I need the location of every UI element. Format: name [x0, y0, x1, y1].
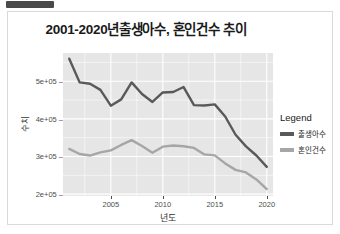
series-line-1 — [69, 140, 267, 189]
y-axis-tick-label: 2e+05 – — [36, 190, 63, 199]
y-axis-tick-label: 3e+05 – — [36, 152, 63, 161]
y-axis-title: 수치 — [18, 116, 30, 132]
x-axis-tick-mark — [163, 196, 164, 199]
legend-title: Legend — [280, 112, 340, 123]
legend-item-1[interactable]: 혼인건수 — [280, 144, 340, 155]
y-axis-tick-label: 4e+05 – — [36, 114, 63, 123]
legend-swatch-icon — [280, 132, 294, 136]
legend-item-label: 출생아수 — [298, 128, 326, 139]
plot-area — [63, 53, 273, 196]
x-axis-title: 년도 — [63, 211, 273, 224]
legend-item-0[interactable]: 출생아수 — [280, 128, 340, 139]
window-chrome-bar — [6, 1, 54, 8]
legend-swatch-icon — [280, 148, 294, 152]
plot-panel — [63, 53, 273, 196]
x-axis-tick-label: 2015 — [206, 200, 223, 209]
x-axis-tick-mark — [215, 196, 216, 199]
x-axis-tick-label: 2020 — [258, 200, 275, 209]
y-axis-tick-label: 5e+05 – — [36, 77, 63, 86]
chart-title: 2001-2020년출생아수, 혼인건수 추이 — [8, 18, 284, 38]
chart-card: 2001-2020년출생아수, 혼인건수 추이 수치 년도 2e+05 –3e+… — [7, 11, 333, 225]
legend: Legend 출생아수혼인건수 — [280, 112, 340, 160]
grid-lines — [63, 53, 273, 196]
x-axis-tick-mark — [111, 196, 112, 199]
legend-items: 출생아수혼인건수 — [280, 128, 340, 155]
x-axis-tick-mark — [267, 196, 268, 199]
x-axis-tick-label: 2010 — [154, 200, 171, 209]
x-axis-tick-label: 2005 — [102, 200, 119, 209]
legend-item-label: 혼인건수 — [298, 144, 326, 155]
series-line-0 — [69, 59, 267, 167]
data-series-lines — [69, 59, 267, 189]
